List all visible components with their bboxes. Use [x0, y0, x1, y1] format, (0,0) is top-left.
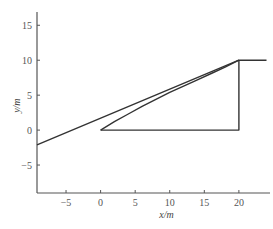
- y-tick-label: 10: [22, 55, 32, 66]
- x-tick-label: 10: [165, 197, 175, 208]
- series-group: [37, 60, 267, 145]
- axes: [37, 12, 270, 193]
- x-axis-label: x/m: [158, 209, 173, 220]
- series-curved-hypotenuse: [101, 60, 239, 130]
- x-tick-label: −5: [61, 197, 72, 208]
- chart: −505101520−5051015 x/m y/m: [0, 0, 273, 229]
- ticks: −505101520−5051015: [21, 20, 244, 208]
- y-axis-label: y/m: [11, 98, 22, 113]
- y-tick-label: −5: [21, 160, 32, 171]
- y-tick-label: 5: [27, 90, 32, 101]
- x-tick-label: 0: [98, 197, 103, 208]
- y-tick-label: 0: [27, 125, 32, 136]
- x-tick-label: 20: [234, 197, 244, 208]
- y-tick-label: 15: [22, 20, 32, 31]
- x-tick-label: 15: [199, 197, 209, 208]
- x-tick-label: 5: [133, 197, 138, 208]
- series-straight-line: [37, 60, 267, 145]
